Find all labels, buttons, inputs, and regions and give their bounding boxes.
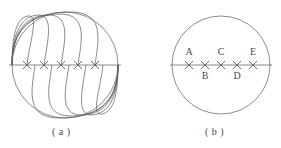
panel-a-lower-arc-family <box>32 65 118 118</box>
panel-a-lower-arc-4 <box>49 65 118 116</box>
point-label-c: C <box>218 46 225 57</box>
panel-a-upper-arc-3 <box>12 15 65 65</box>
panel-b-caption: ( b ) <box>205 126 224 137</box>
point-label-e: E <box>250 46 256 57</box>
panel-b-label-group: A B C D E <box>185 46 256 81</box>
panel-a-lower-arc-2 <box>81 65 118 115</box>
panel-a <box>9 12 121 118</box>
panel-a-upper-arc-2 <box>12 15 49 65</box>
panel-a-caption: ( a ) <box>52 126 71 137</box>
point-label-d: D <box>233 70 240 81</box>
panel-a-lower-arc-3 <box>65 65 118 115</box>
panel-b: A B C D E <box>170 16 272 114</box>
panel-a-upper-arc-4 <box>12 14 81 65</box>
figure-root: A B C D E ( a ) ( b ) <box>0 0 281 148</box>
panel-a-upper-arc-family <box>12 12 98 65</box>
diagram-canvas: A B C D E <box>0 0 281 148</box>
point-label-b: B <box>202 70 209 81</box>
point-label-a: A <box>185 46 193 57</box>
